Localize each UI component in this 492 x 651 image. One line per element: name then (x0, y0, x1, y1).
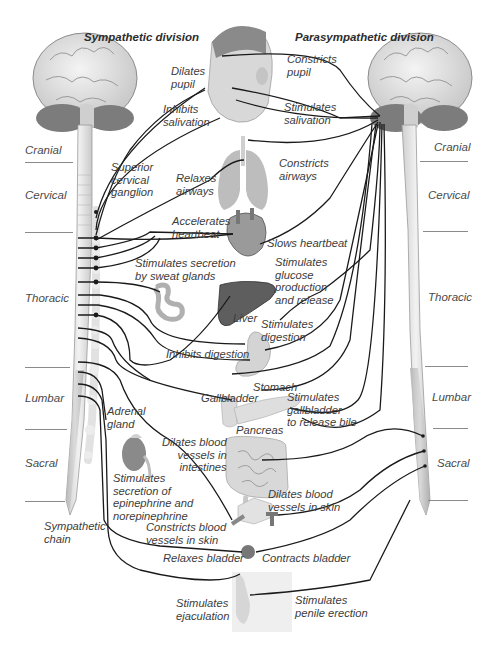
label-slows-heartbeat: Slows heartbeat (267, 237, 347, 250)
label-glucose-production: Stimulates glucose production and releas… (275, 256, 333, 306)
sweat-gland-illustration (156, 285, 182, 319)
label-line: pupil (287, 66, 337, 79)
sympathetic-division-title: Sympathetic division (84, 31, 199, 43)
label-line: by sweat glands (135, 270, 236, 283)
region-right-thoracic: Thoracic (428, 291, 472, 303)
divider (420, 161, 468, 162)
region-right-cranial: Cranial (434, 141, 470, 153)
divider (25, 429, 67, 430)
label-constricts-pupil: Constricts pupil (287, 53, 337, 78)
divider (25, 367, 70, 368)
label-line: Stimulates (275, 256, 333, 269)
label-line: intestines (162, 461, 227, 474)
label-gallbladder: Gallbladder (201, 392, 258, 405)
reproductive-illustration (232, 572, 292, 632)
label-line: gallbladder (287, 404, 357, 417)
label-line: digestion (261, 331, 313, 344)
label-liver: Liver (233, 312, 257, 325)
label-accelerates-heartbeat: Accelerates heartbeat (172, 215, 230, 240)
region-right-sacral: Sacral (437, 457, 470, 469)
divider (25, 162, 73, 163)
label-line: penile erection (295, 607, 368, 620)
region-right-lumbar: Lumbar (432, 391, 471, 403)
label-line: vessels in skin (146, 534, 226, 547)
label-line: salivation (163, 116, 210, 129)
parasympathetic-division-title: Parasympathetic division (295, 31, 434, 43)
label-stimulates-digestion: Stimulates digestion (261, 318, 313, 343)
label-line: Relaxes (176, 172, 216, 185)
label-line: Dilates blood (162, 436, 227, 449)
label-stimulates-salivation: Stimulates salivation (284, 101, 336, 126)
label-line: Stimulates (284, 101, 336, 114)
label-line: Superior (111, 161, 153, 174)
label-line: Stimulates (287, 391, 357, 404)
left-brain (33, 33, 137, 132)
label-line: vessels in (162, 449, 227, 462)
label-line: chain (44, 533, 106, 546)
label-line: to release bile (287, 416, 357, 429)
label-inhibits-digestion: Inhibits digestion (166, 348, 249, 361)
autonomic-nervous-system-artwork (0, 0, 492, 651)
region-left-cranial: Cranial (25, 144, 61, 156)
label-superior-cervical-ganglion: Superior cervical ganglion (111, 161, 153, 199)
label-contracts-bladder: Contracts bladder (262, 552, 350, 565)
label-line: salivation (284, 114, 336, 127)
label-line: glucose (275, 269, 333, 282)
label-line: and release (275, 294, 333, 307)
label-line: heartbeat (172, 228, 230, 241)
label-line: Stimulates secretion (135, 257, 236, 270)
label-line: production (275, 281, 333, 294)
label-line: Constricts blood (146, 521, 226, 534)
label-line: gland (107, 418, 146, 431)
label-adrenal-gland: Adrenal gland (107, 405, 146, 430)
label-line: airways (279, 170, 329, 183)
label-stimulates-ejaculation: Stimulates ejaculation (176, 597, 230, 622)
label-line: Constricts (287, 53, 337, 66)
label-dilates-blood-vessels-intestines: Dilates blood vessels in intestines (162, 436, 227, 474)
label-line: airways (176, 185, 216, 198)
label-dilates-blood-vessels-skin: Dilates blood vessels in skin (268, 488, 340, 513)
label-pancreas: Pancreas (236, 424, 283, 437)
label-sympathetic-chain: Sympathetic chain (44, 520, 106, 545)
label-line: Inhibits (163, 103, 210, 116)
divider (25, 232, 73, 233)
label-line: Stimulates (295, 594, 368, 607)
label-line: Adrenal (107, 405, 146, 418)
label-line: Stimulates (176, 597, 230, 610)
label-line: Constricts (279, 157, 329, 170)
label-line: secretion of (113, 485, 193, 498)
region-left-lumbar: Lumbar (25, 392, 64, 404)
label-relaxes-bladder: Relaxes bladder (163, 552, 244, 565)
label-line: Dilates blood (268, 488, 340, 501)
label-stimulates-penile-erection: Stimulates penile erection (295, 594, 368, 619)
divider (428, 500, 468, 501)
divider (25, 501, 65, 502)
divider (433, 428, 468, 429)
divider (423, 231, 468, 232)
label-line: ganglion (111, 186, 153, 199)
lungs-illustration (218, 136, 268, 210)
label-line: Stimulates (113, 472, 193, 485)
region-left-sacral: Sacral (25, 457, 58, 469)
region-left-cervical: Cervical (25, 189, 67, 201)
right-brain (368, 33, 472, 132)
label-inhibits-salivation: Inhibits salivation (163, 103, 210, 128)
label-constricts-airways: Constricts airways (279, 157, 329, 182)
label-line: Sympathetic (44, 520, 106, 533)
region-right-cervical: Cervical (428, 189, 470, 201)
label-line: cervical (111, 174, 153, 187)
label-sweat-glands: Stimulates secretion by sweat glands (135, 257, 236, 282)
label-relaxes-airways: Relaxes airways (176, 172, 216, 197)
region-left-thoracic: Thoracic (25, 292, 69, 304)
label-line: Dilates (171, 65, 205, 78)
label-line: Stimulates (261, 318, 313, 331)
label-constricts-blood-vessels-skin: Constricts blood vessels in skin (146, 521, 226, 546)
label-line: ejaculation (176, 610, 230, 623)
label-line: vessels in skin (268, 501, 340, 514)
divider (425, 366, 468, 367)
label-line: Accelerates (172, 215, 230, 228)
heart-illustration (227, 208, 266, 256)
label-stimulates-gallbladder: Stimulates gallbladder to release bile (287, 391, 357, 429)
label-line: epinephrine and (113, 497, 193, 510)
label-epinephrine: Stimulates secretion of epinephrine and … (113, 472, 193, 522)
